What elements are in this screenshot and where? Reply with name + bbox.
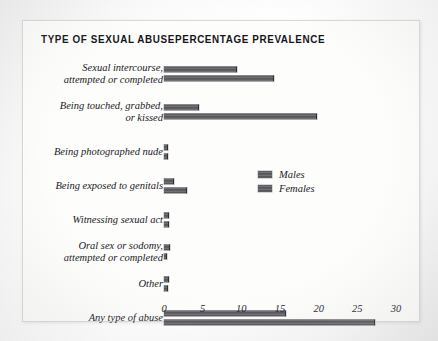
- bar-pair: [164, 105, 404, 120]
- x-axis-tick-label: 5: [200, 303, 205, 314]
- category-label: Other: [13, 278, 163, 290]
- category-label: Being touched, grabbed, or kissed: [13, 100, 163, 123]
- legend-label-males: Males: [279, 169, 305, 180]
- bar-pair: [164, 145, 404, 160]
- category-label: Sexual intercourse, attempted or complet…: [13, 62, 163, 85]
- bar-group: Witnessing sexual act: [23, 207, 421, 233]
- bar-group: Oral sex or sodomy, attempted or complet…: [23, 239, 421, 265]
- bar-males: [164, 145, 168, 151]
- bar-females: [164, 114, 317, 120]
- plot-area: Sexual intercourse, attempted or complet…: [23, 53, 421, 301]
- x-axis-tick-label: 15: [275, 303, 286, 314]
- x-axis-tick-label: 25: [352, 303, 363, 314]
- bar-males: [164, 179, 174, 185]
- bar-group: Being photographed nude: [23, 139, 421, 165]
- bar-females: [164, 286, 168, 292]
- x-axis-tick-label: 30: [391, 303, 402, 314]
- bar-females: [164, 222, 169, 228]
- category-column-header: TYPE OF SEXUAL ABUSE: [41, 33, 175, 45]
- bar-group: Other: [23, 271, 421, 297]
- bar-males: [164, 213, 169, 219]
- category-label: Witnessing sexual act: [13, 214, 163, 226]
- legend-item-females: Females: [258, 183, 315, 194]
- value-column-header: PERCENTAGE PREVALENCE: [175, 33, 325, 45]
- x-axis: 051015202530: [23, 303, 421, 321]
- bar-males: [164, 67, 237, 73]
- legend-item-males: Males: [258, 169, 315, 180]
- legend-swatch-males-icon: [258, 171, 272, 178]
- x-axis-tick-label: 0: [161, 303, 166, 314]
- bar-pair: [164, 213, 404, 228]
- category-label: Oral sex or sodomy, attempted or complet…: [13, 240, 163, 263]
- bar-males: [164, 245, 170, 251]
- x-axis-tick-label: 10: [236, 303, 247, 314]
- bar-males: [164, 277, 169, 283]
- bar-pair: [164, 245, 404, 260]
- bar-group: Sexual intercourse, attempted or complet…: [23, 61, 421, 87]
- bar-females: [164, 154, 168, 160]
- x-axis-tick-label: 20: [313, 303, 324, 314]
- figure-page: TYPE OF SEXUAL ABUSE PERCENTAGE PREVALEN…: [0, 0, 438, 341]
- legend-label-females: Females: [279, 183, 315, 194]
- category-label: Being exposed to genitals: [13, 180, 163, 192]
- bar-females: [164, 188, 187, 194]
- category-label: Being photographed nude: [13, 146, 163, 158]
- chart-panel: TYPE OF SEXUAL ABUSE PERCENTAGE PREVALEN…: [22, 20, 420, 322]
- bar-pair: [164, 67, 404, 82]
- bar-females: [164, 76, 274, 82]
- chart-legend: Males Females: [258, 169, 315, 197]
- bar-pair: [164, 277, 404, 292]
- bar-females: [164, 254, 167, 260]
- bar-group: Being exposed to genitals: [23, 173, 421, 199]
- legend-swatch-females-icon: [258, 185, 272, 192]
- bar-group: Being touched, grabbed, or kissed: [23, 99, 421, 125]
- bar-males: [164, 105, 199, 111]
